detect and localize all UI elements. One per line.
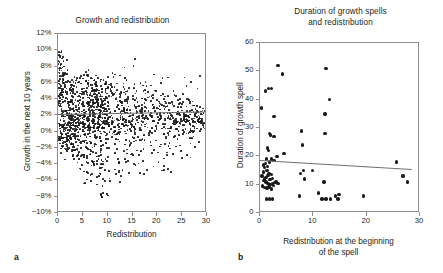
data-point [72, 96, 74, 98]
data-point [183, 125, 185, 127]
data-point [95, 109, 97, 111]
data-point [168, 115, 170, 117]
data-point [114, 86, 116, 88]
data-point [87, 129, 89, 131]
data-point [83, 88, 85, 90]
data-point [94, 79, 96, 81]
data-point [108, 147, 110, 149]
data-point [84, 133, 86, 135]
data-point [96, 176, 98, 178]
data-point [128, 172, 130, 174]
data-point [144, 102, 146, 104]
data-point [199, 116, 201, 118]
data-point [111, 115, 113, 117]
data-point [70, 99, 72, 101]
data-point [74, 102, 76, 104]
data-point [74, 149, 76, 151]
data-point [59, 87, 61, 89]
data-point [100, 193, 102, 195]
data-point [98, 158, 100, 160]
data-point [73, 158, 75, 160]
data-point [155, 90, 157, 92]
data-point [70, 119, 72, 121]
data-point [68, 117, 70, 119]
data-point [120, 94, 122, 96]
data-point [133, 137, 135, 139]
data-point [72, 136, 74, 138]
data-point [336, 197, 339, 200]
data-point [102, 178, 104, 180]
data-point [67, 147, 69, 149]
data-point [146, 117, 148, 119]
data-point [173, 121, 175, 123]
data-point [134, 128, 136, 130]
y-axis-tick [256, 42, 260, 43]
data-point [69, 101, 71, 103]
data-point [63, 72, 65, 74]
data-point [104, 122, 106, 124]
data-point [97, 121, 99, 123]
data-point [169, 128, 171, 130]
data-point [107, 86, 109, 88]
data-point [67, 139, 69, 141]
data-point [152, 120, 154, 122]
data-point [70, 115, 72, 117]
data-point [79, 102, 81, 104]
data-point [133, 87, 135, 89]
y-axis-tick-label: 12% [12, 29, 52, 37]
data-point [190, 114, 192, 116]
data-point [108, 122, 110, 124]
data-point [196, 105, 198, 107]
data-point [108, 125, 110, 127]
data-point [127, 98, 129, 100]
data-point [86, 102, 88, 104]
data-point [118, 108, 120, 110]
data-point [71, 79, 73, 81]
data-point [179, 122, 181, 124]
data-point [81, 115, 83, 117]
data-point [113, 131, 115, 133]
data-point [268, 183, 271, 186]
data-point [75, 138, 77, 140]
data-point [185, 115, 187, 117]
data-point [134, 130, 136, 132]
data-point [71, 119, 73, 121]
data-point [108, 105, 110, 107]
data-point [182, 133, 184, 135]
data-point [107, 87, 109, 89]
data-point [75, 80, 77, 82]
data-point [99, 137, 101, 139]
data-point [184, 114, 186, 116]
data-point [165, 106, 167, 108]
data-point [58, 54, 60, 56]
data-point [75, 136, 77, 138]
data-point [96, 101, 98, 103]
data-point [189, 123, 191, 125]
data-point [59, 124, 61, 126]
data-point [95, 83, 97, 85]
data-point [138, 105, 140, 107]
data-point [58, 60, 59, 62]
data-point [126, 149, 128, 151]
x-axis-tick [181, 212, 182, 216]
panel-a-scatter-layer [58, 34, 205, 211]
data-point [100, 167, 102, 169]
data-point [106, 97, 108, 99]
data-point [65, 129, 67, 131]
data-point [75, 122, 77, 124]
data-point [175, 118, 177, 120]
data-point [106, 193, 108, 195]
data-point [58, 100, 60, 102]
data-point [101, 159, 103, 161]
data-point [59, 125, 61, 127]
data-point [69, 130, 71, 132]
x-axis-tick-label: 20 [351, 217, 381, 225]
data-point [73, 85, 75, 87]
data-point [135, 93, 137, 95]
panel-b: Duration of growth spells and redistribu… [221, 0, 443, 273]
data-point [190, 81, 192, 83]
data-point [121, 123, 123, 125]
data-point [166, 154, 168, 156]
data-point [174, 123, 176, 125]
data-point [69, 129, 71, 131]
